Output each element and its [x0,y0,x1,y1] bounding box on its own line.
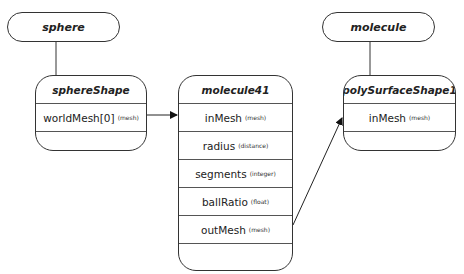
attribute-type: (mesh) [249,226,270,233]
node-footer [36,132,146,150]
attribute-name: worldMesh[0] [43,112,114,124]
node-footer [344,132,455,150]
node-title: molecule41 [179,76,292,104]
attribute-type: (distance) [238,142,268,149]
node-footer [179,244,292,270]
attribute-name: ballRatio [202,196,248,208]
attribute-type: (mesh) [118,114,139,121]
attribute-row[interactable]: segments (integer) [179,160,292,188]
transform-node-molecule[interactable]: molecule [322,12,435,42]
attribute-name: inMesh [205,112,242,124]
attribute-row[interactable]: inMesh (mesh) [179,104,292,132]
transform-label: molecule [351,21,407,34]
attribute-row[interactable]: ballRatio (float) [179,188,292,216]
attribute-row[interactable]: radius (distance) [179,132,292,160]
attribute-row[interactable]: outMesh (mesh) [179,216,292,244]
connection-outmesh-to-inmesh [293,118,342,225]
attribute-name: radius [203,140,235,152]
node-sphereShape[interactable]: sphereShape worldMesh[0] (mesh) [35,75,147,151]
attribute-name: segments [195,168,247,180]
node-polySurfaceShape1[interactable]: polySurfaceShape1 inMesh (mesh) [343,75,456,151]
attribute-type: (float) [251,198,269,205]
attribute-row[interactable]: worldMesh[0] (mesh) [36,104,146,132]
node-title: polySurfaceShape1 [344,76,455,104]
attribute-type: (mesh) [245,114,266,121]
attribute-name: outMesh [201,224,246,236]
transform-label: sphere [42,21,85,34]
attribute-type: (integer) [250,170,276,177]
node-molecule41[interactable]: molecule41 inMesh (mesh) radius (distanc… [178,75,293,271]
attribute-name: inMesh [369,112,406,124]
attribute-type: (mesh) [409,114,430,121]
transform-node-sphere[interactable]: sphere [7,12,120,42]
node-title: sphereShape [36,76,146,104]
attribute-row[interactable]: inMesh (mesh) [344,104,455,132]
